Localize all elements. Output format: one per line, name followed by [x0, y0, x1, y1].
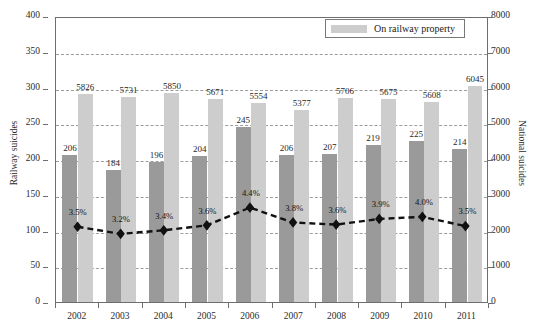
line-marker-2006 — [246, 202, 254, 213]
x-tick-mark — [445, 303, 446, 308]
tick-mark — [43, 53, 48, 54]
line-label-2011: 3.5% — [458, 207, 476, 216]
legend-label-on-railway-property: On railway property — [374, 23, 455, 34]
y-axis-right-label: 6000 — [491, 83, 523, 93]
plot-area: 2065826184573119658502045671245555420653… — [55, 17, 488, 303]
line-marker-2005 — [203, 220, 211, 231]
y-axis-right-label: 2000 — [491, 226, 523, 236]
x-axis-label-2008: 2008 — [327, 311, 346, 321]
tick-mark — [488, 267, 493, 268]
y-axis-right-label: 4000 — [491, 154, 523, 164]
line-marker-2004 — [160, 225, 168, 236]
tick-mark — [488, 53, 493, 54]
line-label-2007: 3.8% — [285, 204, 303, 213]
y-axis-left-label: 300 — [12, 83, 40, 93]
x-tick-mark — [358, 303, 359, 308]
x-tick-mark — [142, 303, 143, 308]
tick-mark — [488, 124, 493, 125]
y-axis-left-label: 250 — [12, 118, 40, 128]
x-tick-mark — [488, 303, 489, 308]
tick-mark — [43, 160, 48, 161]
tick-mark — [488, 160, 493, 161]
x-axis-label-2007: 2007 — [284, 311, 303, 321]
line-marker-2009 — [375, 214, 383, 225]
x-axis-label-2003: 2003 — [110, 311, 129, 321]
line-label-2005: 3.6% — [199, 207, 217, 216]
tick-mark — [488, 89, 493, 90]
line-marker-2010 — [418, 211, 426, 222]
line-on-railway-property — [78, 208, 466, 234]
chart-container: Railway suicides National suicides 05010… — [0, 0, 535, 332]
tick-mark — [488, 196, 493, 197]
y-axis-left-label: 200 — [12, 154, 40, 164]
line-label-2010: 4.0% — [415, 198, 433, 207]
tick-mark — [43, 89, 48, 90]
x-tick-mark — [401, 303, 402, 308]
x-axis-label-2005: 2005 — [197, 311, 216, 321]
tick-mark — [488, 232, 493, 233]
y-axis-right-ticks: 010002000300040005000600070008000 — [491, 0, 525, 332]
y-axis-right-label: 3000 — [491, 190, 523, 200]
line-label-2003: 3.2% — [112, 215, 130, 224]
x-tick-mark — [55, 303, 56, 308]
tick-mark — [43, 196, 48, 197]
y-axis-left-ticks: 050100150200250300350400 — [12, 0, 40, 332]
x-tick-mark — [185, 303, 186, 308]
x-axis-label-2002: 2002 — [67, 311, 86, 321]
y-axis-right-label: 5000 — [491, 118, 523, 128]
tick-mark — [43, 124, 48, 125]
x-axis-ticks: 2002200320042005200620072008200920102011 — [55, 303, 488, 329]
tick-mark — [488, 17, 493, 18]
line-label-2002: 3.5% — [69, 208, 87, 217]
y-axis-right-label: 0 — [491, 297, 523, 307]
x-tick-mark — [272, 303, 273, 308]
y-axis-right-label: 7000 — [491, 47, 523, 57]
x-tick-mark — [98, 303, 99, 308]
legend-swatch-on-railway-property — [331, 25, 367, 33]
y-axis-left-label: 0 — [12, 297, 40, 307]
y-axis-left-label: 50 — [12, 261, 40, 271]
line-label-2009: 3.9% — [372, 200, 390, 209]
x-tick-mark — [315, 303, 316, 308]
tick-mark — [43, 267, 48, 268]
tick-mark — [43, 17, 48, 18]
y-axis-left-label: 100 — [12, 226, 40, 236]
line-marker-2008 — [332, 219, 340, 230]
x-axis-label-2010: 2010 — [414, 311, 433, 321]
line-label-2004: 3.4% — [155, 212, 173, 221]
x-axis-label-2009: 2009 — [370, 311, 389, 321]
legend: On railway property — [325, 19, 465, 38]
line-marker-2007 — [289, 217, 297, 228]
x-axis-label-2004: 2004 — [154, 311, 173, 321]
line-series-layer — [56, 18, 487, 302]
x-tick-mark — [228, 303, 229, 308]
line-marker-2003 — [116, 228, 124, 239]
y-axis-left-label: 150 — [12, 190, 40, 200]
line-label-2008: 3.6% — [328, 206, 346, 215]
x-axis-label-2006: 2006 — [240, 311, 259, 321]
line-label-2006: 4.4% — [242, 189, 260, 198]
line-marker-2002 — [73, 221, 81, 232]
x-axis-label-2011: 2011 — [457, 311, 476, 321]
y-axis-left-label: 350 — [12, 47, 40, 57]
y-axis-left-label: 400 — [12, 11, 40, 21]
y-axis-right-label: 1000 — [491, 261, 523, 271]
y-axis-right-label: 8000 — [491, 11, 523, 21]
tick-mark — [43, 303, 48, 304]
line-marker-2011 — [461, 221, 469, 232]
tick-mark — [43, 232, 48, 233]
